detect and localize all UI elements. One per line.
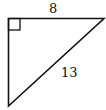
hypotenuse-length-label: 13 (61, 66, 78, 79)
top-side-length-label: 8 (49, 2, 57, 15)
right-triangle-diagram: 8 13 (0, 0, 106, 110)
triangle-graphic (0, 0, 106, 110)
triangle-shape (9, 19, 105, 107)
right-angle-marker (9, 19, 21, 31)
